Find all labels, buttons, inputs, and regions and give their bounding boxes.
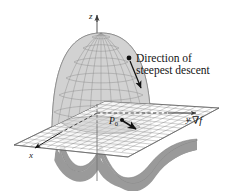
- p0-subscript: 0: [115, 120, 118, 127]
- callout-line-1: Direction of: [136, 52, 192, 64]
- steepest-descent-figure: z: [0, 0, 228, 191]
- nabla-symbol: ∇: [192, 115, 199, 126]
- x-axis-label: x: [28, 150, 33, 160]
- figure-canvas: z: [0, 0, 228, 191]
- callout-line-2: steepest descent: [136, 64, 211, 77]
- callout-anchor-dot: [127, 56, 132, 61]
- negative-gradient-label: −∇f: [186, 115, 204, 126]
- z-axis-label: z: [88, 11, 93, 21]
